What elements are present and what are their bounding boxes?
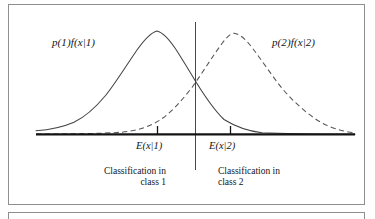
- density-label-class-2: p(2)f(x|2): [272, 36, 315, 48]
- region-caption-class-2: Classification in class 2: [218, 166, 314, 188]
- region-caption-class-1: Classification in class 1: [78, 166, 166, 188]
- tick-label-expected-x-class-1: E(x|1): [136, 140, 162, 151]
- tick-label-expected-x-class-2: E(x|2): [209, 140, 235, 151]
- empty-panel-below: [8, 212, 365, 219]
- density-label-class-1: p(1)f(x|1): [52, 36, 95, 48]
- figure-root: p(1)f(x|1) p(2)f(x|2) E(x|1) E(x|2) Clas…: [0, 0, 375, 219]
